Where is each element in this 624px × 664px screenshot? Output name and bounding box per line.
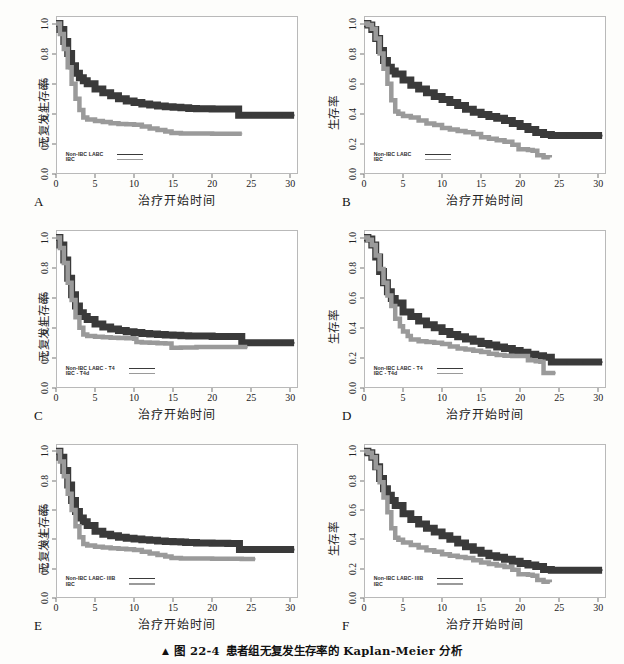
legend-swatch-dark — [129, 578, 155, 579]
x-axis-tick-label: 15 — [168, 392, 178, 403]
x-axis-label: 治疗开始时间 — [56, 191, 298, 208]
x-axis-tick-mark — [95, 598, 96, 602]
x-axis-tick-mark — [56, 174, 57, 178]
y-axis-tick-label: 0.4 — [347, 109, 359, 119]
x-axis-tick-mark — [403, 174, 404, 178]
legend: Non-IBC LABC- IIIBIBC — [374, 576, 464, 587]
x-axis-tick-mark — [403, 598, 404, 602]
series-line-dark — [56, 24, 294, 116]
x-axis-tick-mark — [134, 598, 135, 602]
x-axis-tick-label: 30 — [593, 178, 603, 189]
legend-keys — [437, 366, 463, 375]
panel-c: 无复发生存率0.00.20.40.60.81.0051015202530Non-… — [4, 220, 312, 434]
legend-swatch-light — [425, 159, 451, 160]
x-axis-tick-mark — [251, 388, 252, 392]
series-line-dark — [364, 24, 602, 136]
legend-keys — [129, 576, 155, 585]
censor-marks-dark — [60, 456, 294, 550]
x-axis-tick-mark — [95, 388, 96, 392]
legend-swatch-dark — [437, 368, 463, 369]
x-axis-tick-mark — [403, 388, 404, 392]
plot-area: 0.00.20.40.60.81.0051015202530Non-IBC LA… — [364, 16, 606, 174]
x-axis-tick-mark — [251, 174, 252, 178]
x-axis-tick-label: 25 — [554, 178, 564, 189]
y-axis-tick-label: 0.6 — [347, 505, 359, 515]
legend-keys — [117, 152, 143, 161]
x-axis-tick-label: 25 — [554, 602, 564, 613]
series-line-dark — [364, 451, 602, 570]
y-axis-tick-label: 0.6 — [39, 505, 51, 515]
x-axis-tick-mark — [173, 174, 174, 178]
x-axis-tick-label: 0 — [54, 602, 59, 613]
x-axis-tick-label: 20 — [515, 178, 525, 189]
y-axis-tick-label: 0.8 — [347, 476, 359, 486]
y-axis-tick-label: 1.0 — [347, 19, 359, 29]
y-axis-tick-label: 0.2 — [347, 139, 359, 149]
x-axis-tick-label: 20 — [207, 178, 217, 189]
x-axis-tick-label: 20 — [515, 602, 525, 613]
panel-letter: F — [342, 618, 349, 634]
panel-inner: 无复发生存率0.00.20.40.60.81.0051015202530Non-… — [4, 220, 312, 434]
series-line-light — [364, 24, 550, 158]
x-axis-tick-label: 30 — [285, 602, 295, 613]
y-axis-tick-label: 0.0 — [347, 593, 359, 603]
legend-labels: Non-IBC LABC - T4IBC - T4d — [66, 366, 115, 377]
y-axis-tick-label: 0.2 — [39, 564, 51, 574]
panel-d: 生存率0.00.20.40.60.81.0051015202530Non-IBC… — [312, 220, 620, 434]
panel-grid: 无复发生存率0.00.20.40.60.81.0051015202530Non-… — [4, 6, 620, 644]
x-axis-tick-label: 15 — [476, 392, 486, 403]
x-axis-tick-mark — [212, 174, 213, 178]
legend-labels: Non-IBC LABCIBC — [374, 152, 412, 163]
x-axis-tick-mark — [212, 388, 213, 392]
y-axis-tick-label: 0.8 — [39, 49, 51, 59]
figure-sheet: 无复发生存率0.00.20.40.60.81.0051015202530Non-… — [0, 0, 624, 664]
plot-area: 0.00.20.40.60.81.0051015202530Non-IBC LA… — [364, 230, 606, 388]
panel-b: 生存率0.00.20.40.60.81.0051015202530Non-IBC… — [312, 6, 620, 220]
y-axis-label: 生存率 — [325, 96, 341, 131]
y-axis-tick-label: 0.0 — [347, 383, 359, 393]
x-axis-tick-label: 20 — [207, 392, 217, 403]
x-axis-tick-label: 10 — [129, 392, 139, 403]
legend: Non-IBC LABC - T4IBC - T4d — [374, 366, 463, 377]
x-axis-tick-label: 15 — [168, 178, 178, 189]
legend-swatch-light — [437, 373, 463, 374]
series-line-dark — [364, 238, 602, 363]
y-axis-tick-label: 0.4 — [347, 534, 359, 544]
panel-a: 无复发生存率0.00.20.40.60.81.0051015202530Non-… — [4, 6, 312, 220]
series-line-dark — [56, 451, 294, 549]
legend-label: IBC - T4d — [66, 371, 115, 377]
legend-swatch-light — [437, 583, 463, 584]
y-axis-tick-label: 1.0 — [39, 19, 51, 29]
x-axis-tick-label: 25 — [246, 602, 256, 613]
y-axis-tick-label: 0.2 — [347, 564, 359, 574]
x-axis-tick-label: 0 — [54, 392, 59, 403]
censor-marks-dark — [60, 244, 294, 344]
x-axis-tick-label: 30 — [285, 178, 295, 189]
y-axis-tick-label: 0.8 — [39, 476, 51, 486]
y-axis-tick-label: 0.8 — [347, 263, 359, 273]
censor-marks-light — [368, 24, 550, 158]
legend-swatch-dark — [117, 154, 143, 155]
x-axis-tick-mark — [290, 174, 291, 178]
x-axis-tick-mark — [364, 598, 365, 602]
x-axis-tick-label: 25 — [554, 392, 564, 403]
legend-keys — [425, 152, 451, 161]
y-axis-tick-label: 0.6 — [347, 79, 359, 89]
x-axis-tick-mark — [520, 388, 521, 392]
panel-letter: D — [342, 408, 351, 424]
panel-inner: 生存率0.00.20.40.60.81.0051015202530Non-IBC… — [312, 434, 620, 644]
x-axis-tick-mark — [56, 388, 57, 392]
y-axis-tick-label: 1.0 — [39, 446, 51, 456]
x-axis-tick-mark — [134, 174, 135, 178]
plot-area: 0.00.20.40.60.81.0051015202530Non-IBC LA… — [56, 16, 298, 174]
y-axis-tick-label: 0.0 — [39, 169, 51, 179]
x-axis-tick-mark — [520, 174, 521, 178]
panel-inner: 无复发生存率0.00.20.40.60.81.0051015202530Non-… — [4, 6, 312, 220]
x-axis-label: 治疗开始时间 — [364, 191, 606, 208]
legend: Non-IBC LABCIBC — [374, 152, 452, 163]
y-axis-tick-label: 0.8 — [347, 49, 359, 59]
plot-area: 0.00.20.40.60.81.0051015202530Non-IBC LA… — [56, 230, 298, 388]
panel-e: 无复发生存率0.00.20.40.60.81.0051015202530Non-… — [4, 434, 312, 644]
y-axis-tick-label: 0.2 — [39, 139, 51, 149]
plot-area: 0.00.20.40.60.81.0051015202530Non-IBC LA… — [56, 444, 298, 598]
